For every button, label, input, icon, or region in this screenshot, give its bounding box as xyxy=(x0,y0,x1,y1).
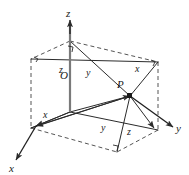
vector-p-to-lower-right xyxy=(130,96,154,128)
axis-label-y: y xyxy=(175,122,181,134)
y-axis-line xyxy=(130,96,173,127)
edge-label-x-lower-left: x xyxy=(42,109,48,120)
edge-top-back-left xyxy=(31,41,70,59)
edge-upper-horizontal xyxy=(31,59,158,62)
axis-label-z: z xyxy=(65,7,71,19)
edge-bottom-back-right xyxy=(117,130,158,152)
right-angle-marker-bottom xyxy=(113,145,118,151)
edge-label-x-upper-right: x xyxy=(134,63,140,74)
point-p-marker xyxy=(127,93,132,98)
edge-label-z-upper-left: z xyxy=(58,64,63,75)
edge-top-back-right xyxy=(70,41,158,62)
hidden-edges-group xyxy=(31,41,158,152)
edge-label-y-lower-middle: y xyxy=(100,122,106,133)
edge-front-bottom-right xyxy=(70,112,158,130)
x-axis-line xyxy=(16,126,36,160)
diagram-canvas: z y x O P z y x x y z xyxy=(0,0,189,175)
point-p-label: P xyxy=(116,78,124,90)
edge-label-y-upper-middle: y xyxy=(85,67,91,78)
axis-label-x: x xyxy=(8,162,14,174)
coordinate-diagram: z y x O P z y x x y z xyxy=(0,0,189,175)
vector-o-to-lower-left xyxy=(36,112,70,126)
edge-label-z-lower-right: z xyxy=(126,126,131,137)
axes-arrow-group xyxy=(16,20,173,160)
